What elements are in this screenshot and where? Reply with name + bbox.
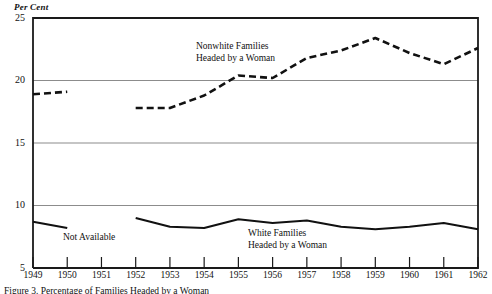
series-label-nonwhite-line1: Nonwhite Families <box>196 41 269 51</box>
data-series-group <box>33 38 478 229</box>
y-tick-label-15: 15 <box>5 137 25 148</box>
series-label-nonwhite: Nonwhite Families Headed by a Woman <box>196 41 275 64</box>
not-available-note: Not Available <box>63 232 115 242</box>
gridlines-group <box>33 81 478 206</box>
series-label-white-line1: White Families <box>248 228 306 238</box>
series-path-nonwhite-seg1 <box>136 38 478 108</box>
y-tick-label-10: 10 <box>5 199 25 210</box>
x-axis-ticks <box>33 257 478 268</box>
y-tick-label-20: 20 <box>5 74 25 85</box>
figure-caption: Figure 3. Percentage of Families Headed … <box>4 286 209 294</box>
series-label-nonwhite-line2: Headed by a Woman <box>196 53 275 65</box>
chart-figure: Per Cent 510152025 194919501951195219531… <box>0 0 492 294</box>
series-path-white-seg0 <box>33 222 67 228</box>
series-label-white-line2: Headed by a Woman <box>248 240 327 252</box>
series-label-white: White Families Headed by a Woman <box>248 228 327 251</box>
y-tick-label-25: 25 <box>5 12 25 23</box>
y-axis-unit-label: Per Cent <box>14 2 48 12</box>
x-tick-label-1962: 1962 <box>458 270 492 280</box>
series-path-nonwhite-seg0 <box>33 92 67 95</box>
